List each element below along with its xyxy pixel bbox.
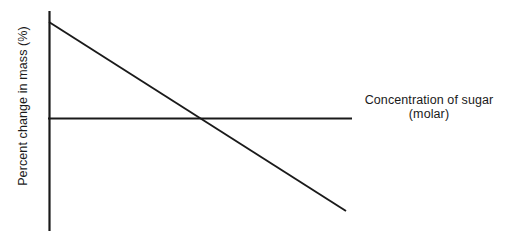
x-axis-label-units: (molar) [350,107,508,121]
y-axis-label: Percent change in mass (%) [16,11,30,201]
data-line-percent-change [49,22,346,211]
y-axis-label-container: Percent change in mass (%) [0,0,44,231]
x-axis-label-container: Concentration of sugar (molar) [350,93,508,121]
graph-figure: Percent change in mass (%) Concentration… [0,0,514,231]
x-axis-label-primary: Concentration of sugar [350,93,508,107]
